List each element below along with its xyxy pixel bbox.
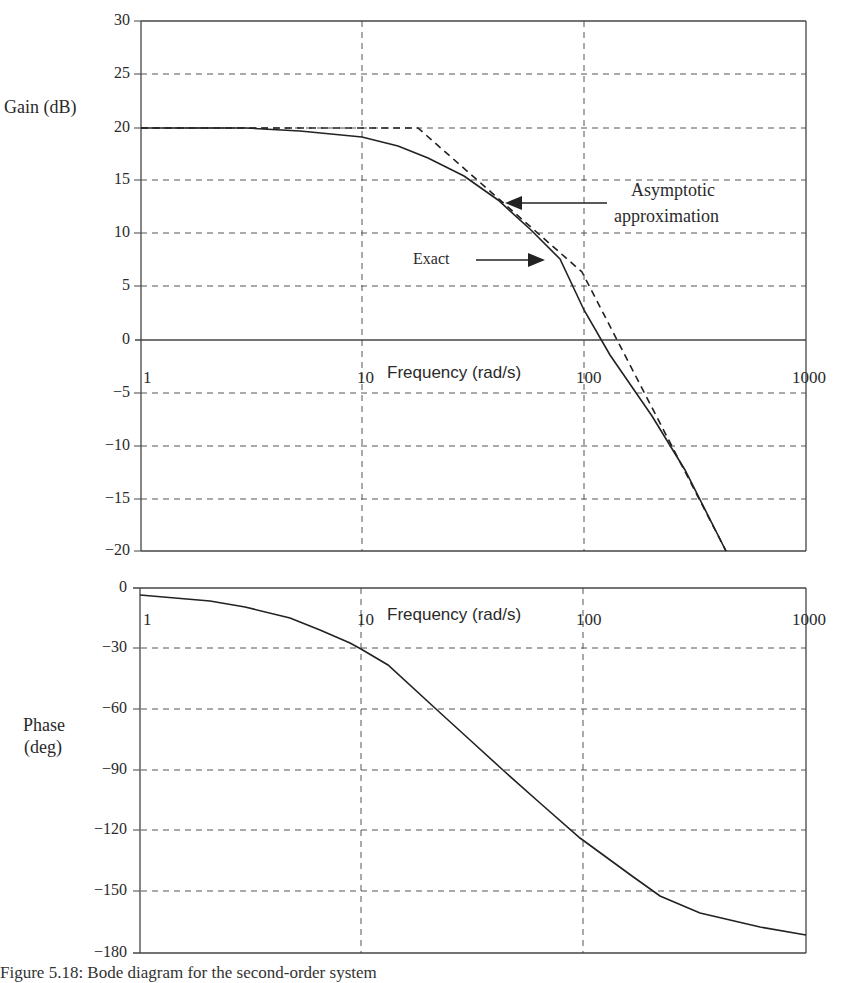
gain-ytick: −20 xyxy=(90,541,130,559)
phase-grid xyxy=(141,588,806,953)
annotation-asymptotic-line1: Asymptotic xyxy=(631,180,715,201)
gain-ytick: 10 xyxy=(90,223,130,241)
phase-ytick: −30 xyxy=(87,638,127,656)
figure-caption: Figure 5.18: Bode diagram for the second… xyxy=(0,963,377,983)
phase-ytick: −90 xyxy=(87,760,127,778)
phase-ytick: −120 xyxy=(87,820,127,838)
asymptotic-arrow xyxy=(505,196,607,210)
phase-curve xyxy=(140,595,806,935)
phase-plot xyxy=(133,588,806,953)
phase-ylabel-line1: Phase xyxy=(23,715,65,736)
phase-ytick: −150 xyxy=(87,881,127,899)
gain-ylabel: Gain (dB) xyxy=(4,97,76,118)
phase-xtick: 1 xyxy=(143,610,152,630)
annotation-exact: Exact xyxy=(413,250,449,268)
phase-xtick: 1000 xyxy=(792,610,826,630)
gain-xtick: 1000 xyxy=(792,368,826,388)
phase-xtick: 100 xyxy=(576,610,602,630)
phase-ytick: −60 xyxy=(87,699,127,717)
gain-ytick: 25 xyxy=(90,64,130,82)
phase-xlabel: Frequency (rad/s) xyxy=(387,605,521,625)
exact-arrow xyxy=(476,253,545,267)
gain-grid xyxy=(141,21,806,551)
gain-xtick: 10 xyxy=(357,368,374,388)
gain-xtick: 100 xyxy=(576,368,602,388)
phase-xtick: 10 xyxy=(357,610,374,630)
gain-ytick: 15 xyxy=(90,170,130,188)
gain-ytick: −10 xyxy=(90,436,130,454)
gain-ytick: 30 xyxy=(90,11,130,29)
phase-ytick: −180 xyxy=(87,943,127,961)
gain-xlabel: Frequency (rad/s) xyxy=(387,363,521,383)
annotation-asymptotic-line2: approximation xyxy=(614,206,719,227)
phase-ytick: 0 xyxy=(87,578,127,596)
phase-ylabel-line2: (deg) xyxy=(24,737,62,758)
gain-ytick: 20 xyxy=(90,118,130,136)
gain-ytick: 5 xyxy=(90,276,130,294)
gain-ytick: −15 xyxy=(90,489,130,507)
gain-plot xyxy=(134,21,806,551)
gain-ytick: 0 xyxy=(90,330,130,348)
gain-xtick: 1 xyxy=(143,368,152,388)
gain-ytick: −5 xyxy=(90,383,130,401)
